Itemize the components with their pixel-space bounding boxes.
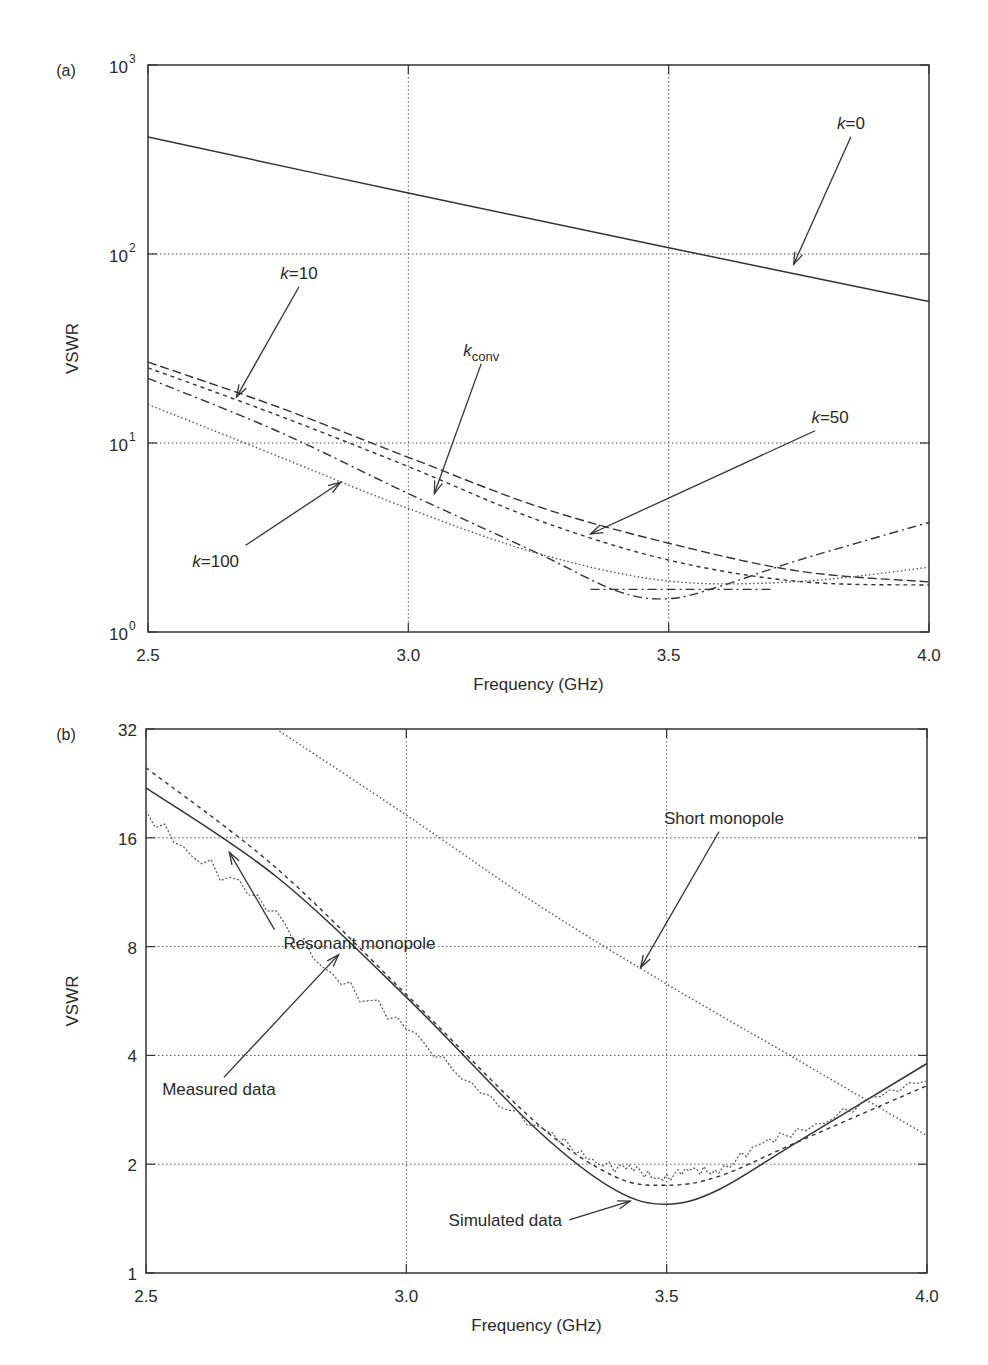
annotation-arrow	[591, 431, 816, 534]
series-k-100	[148, 404, 929, 584]
annotation-label: k=100	[192, 552, 239, 571]
y-axis-label: VSWR	[63, 323, 82, 374]
x-tick-label: 3.0	[397, 646, 421, 665]
y-tick-label: 16	[118, 830, 137, 849]
y-tick-label: 4	[128, 1047, 137, 1066]
panel-label: (a)	[56, 62, 76, 79]
series-group	[146, 729, 927, 1204]
x-tick-label: 4.0	[915, 1287, 939, 1306]
annotation-arrow	[434, 364, 481, 494]
series-k-0	[148, 137, 929, 302]
series-short-monopole	[276, 729, 927, 1136]
y-tick-label: 10	[109, 436, 128, 455]
annotation-label: Simulated data	[449, 1211, 563, 1230]
y-tick-label: 2	[128, 1156, 137, 1175]
annotation-label: Resonant monopole	[283, 934, 435, 953]
y-tick-exponent: 0	[129, 619, 136, 633]
x-tick-label: 2.5	[136, 646, 160, 665]
y-tick-exponent: 2	[129, 241, 136, 255]
series-simulated-data-resonant-monopole-	[146, 788, 927, 1204]
series-k-conv	[148, 368, 929, 585]
series-k-10	[148, 362, 929, 582]
annotation-arrow	[229, 852, 274, 929]
annotation-label: k=10	[280, 264, 317, 283]
annotation-label: kconv	[463, 341, 499, 364]
annotation-arrow	[641, 832, 719, 968]
plot-frame	[146, 729, 927, 1273]
figure: 2.53.03.54.0100101102103Frequency (GHz)V…	[0, 0, 988, 1365]
y-tick-label: 32	[118, 721, 137, 740]
y-tick-label: 10	[109, 247, 128, 266]
gridlines	[148, 65, 929, 632]
y-tick-exponent: 3	[129, 52, 136, 66]
annotation-label: k=0	[837, 114, 865, 133]
annotation-arrow	[569, 1201, 630, 1220]
x-tick-label: 3.0	[395, 1287, 419, 1306]
x-tick-label: 3.5	[655, 1287, 679, 1306]
panel-a-vswr-vs-frequency: 2.53.03.54.0100101102103Frequency (GHz)V…	[56, 52, 941, 694]
annotation-arrow	[794, 137, 851, 265]
series-group	[148, 137, 929, 599]
y-tick-label: 8	[128, 939, 137, 958]
annotation-arrow	[224, 955, 339, 1078]
y-tick-label: 10	[109, 625, 128, 644]
annotation-label: Measured data	[162, 1080, 276, 1099]
panel-label: (b)	[56, 726, 76, 743]
series-resonant-monopole-model-	[146, 768, 927, 1186]
annotation-label: Short monopole	[664, 809, 784, 828]
x-tick-label: 4.0	[917, 646, 941, 665]
y-tick-exponent: 1	[129, 430, 136, 444]
x-axis-label: Frequency (GHz)	[473, 675, 603, 694]
y-tick-label: 10	[109, 58, 128, 77]
annotation-arrow	[237, 287, 299, 397]
y-axis-label: VSWR	[63, 976, 82, 1027]
gridlines	[146, 729, 927, 1273]
x-axis-label: Frequency (GHz)	[471, 1316, 601, 1335]
annotation-label: k=50	[811, 408, 848, 427]
panel-b-vswr-vs-frequency: 2.53.03.54.012481632Frequency (GHz)VSWR(…	[56, 721, 939, 1335]
x-tick-label: 3.5	[657, 646, 681, 665]
annotation-arrow	[246, 482, 341, 545]
plot-frame	[148, 65, 929, 632]
x-tick-label: 2.5	[134, 1287, 158, 1306]
y-tick-label: 1	[128, 1265, 137, 1284]
